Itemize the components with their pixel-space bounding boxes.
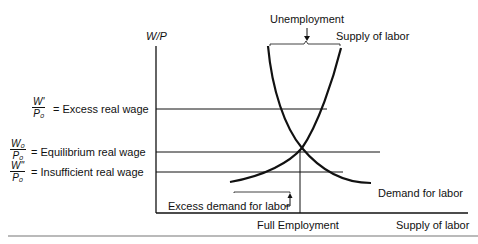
demand-curve-label: Demand for labor xyxy=(378,187,463,199)
excess-demand-label: Excess demand for labor xyxy=(168,200,290,212)
equilibrium-wage-fraction: W₀ P₀ xyxy=(10,138,26,161)
x-axis-label: Supply of labor xyxy=(396,219,469,231)
insufficient-wage-fraction: W'' P₀ xyxy=(10,160,25,183)
unemployment-label: Unemployment xyxy=(270,13,344,25)
equilibrium-wage-label: = Equilibrium real wage xyxy=(31,146,146,158)
arrow-down-icon xyxy=(304,36,310,41)
arrow-up-icon xyxy=(288,193,293,198)
full-employment-label: Full Employment xyxy=(257,219,339,231)
insufficient-wage-label: = Insufficient real wage xyxy=(31,166,144,178)
supply-curve-label: Supply of labor xyxy=(336,30,409,42)
excess-wage-label: = Excess real wage xyxy=(53,103,149,115)
excess-demand-bracket xyxy=(234,192,290,193)
excess-wage-fraction: W' P₀ xyxy=(32,96,45,119)
y-axis-label: W/P xyxy=(146,30,167,42)
unemployment-bracket xyxy=(270,41,340,46)
supply-curve xyxy=(230,48,341,182)
